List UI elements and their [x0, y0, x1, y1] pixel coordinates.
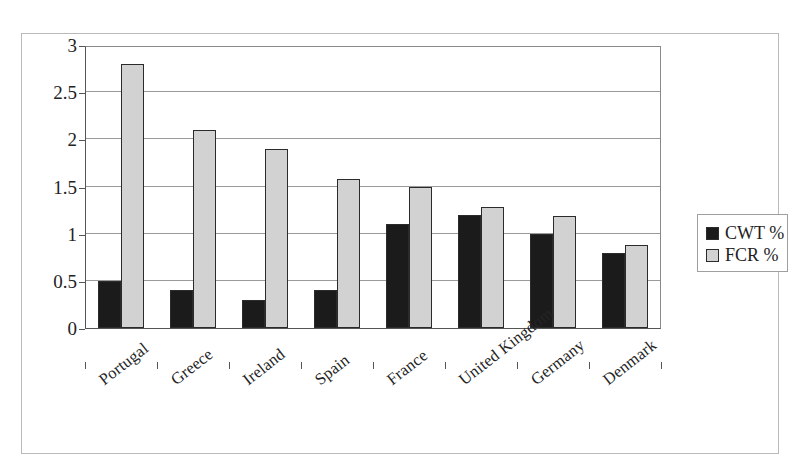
bar-group — [158, 47, 230, 328]
y-axis-tick-label: 2 — [68, 129, 78, 151]
plot-area — [85, 46, 661, 329]
x-axis-tick-mark — [517, 362, 518, 369]
x-axis-label: Ireland — [239, 344, 289, 389]
bar-fcr[interactable] — [265, 149, 288, 328]
x-axis-label: Germany — [527, 335, 589, 389]
bar-group — [302, 47, 374, 328]
x-axis-tick-mark — [229, 362, 230, 369]
bar-group — [374, 47, 446, 328]
y-axis-tick-label: 0.5 — [53, 271, 77, 293]
bar-fcr[interactable] — [553, 216, 576, 328]
bar-group — [590, 47, 662, 328]
legend-label: CWT % — [725, 223, 784, 244]
bar-fcr[interactable] — [625, 245, 648, 328]
bar-group — [518, 47, 590, 328]
y-axis-tick-mark — [79, 140, 85, 141]
y-axis: 00.511.522.53 — [22, 46, 77, 329]
y-axis-tick-mark — [79, 188, 85, 189]
bar-group — [446, 47, 518, 328]
x-axis-tick-mark — [301, 362, 302, 369]
y-axis-tick-label: 1.5 — [53, 177, 77, 199]
y-axis-tick-label: 1 — [68, 224, 78, 246]
y-axis-tick-mark — [79, 329, 85, 330]
bar-fcr[interactable] — [193, 130, 216, 328]
y-axis-tick-label: 2.5 — [53, 82, 77, 104]
bar-fcr[interactable] — [481, 207, 504, 328]
bar-group — [230, 47, 302, 328]
legend-item[interactable]: FCR % — [706, 244, 787, 266]
x-axis-label: Spain — [311, 350, 354, 390]
bar-cwt[interactable] — [386, 224, 409, 328]
chart-frame: 00.511.522.53 PortugalGreeceIrelandSpain… — [21, 33, 779, 454]
bar-cwt[interactable] — [602, 253, 625, 328]
bar-fcr[interactable] — [337, 179, 360, 328]
x-axis-tick-mark — [85, 362, 86, 369]
legend-swatch-icon — [706, 249, 719, 262]
bar-group — [86, 47, 158, 328]
bar-cwt[interactable] — [170, 290, 193, 328]
y-axis-tick-mark — [79, 282, 85, 283]
x-axis-label: Portugal — [95, 339, 153, 390]
bar-cwt[interactable] — [458, 215, 481, 328]
bar-cwt[interactable] — [314, 290, 337, 328]
y-axis-tick-mark — [79, 93, 85, 94]
x-axis-tick-mark — [157, 362, 158, 369]
legend-label: FCR % — [725, 245, 779, 266]
bar-cwt[interactable] — [242, 300, 265, 328]
y-axis-tick-mark — [79, 46, 85, 47]
y-axis-tick-label: 0 — [68, 318, 78, 340]
bar-fcr[interactable] — [121, 64, 144, 328]
x-axis-tick-mark — [589, 362, 590, 369]
bar-fcr[interactable] — [409, 187, 432, 329]
y-axis-tick-mark — [79, 235, 85, 236]
x-axis-label: Greece — [167, 345, 217, 390]
y-axis-tick-label: 3 — [68, 35, 78, 57]
x-axis-tick-mark — [445, 362, 446, 369]
bar-cwt[interactable] — [98, 281, 121, 328]
x-axis-tick-mark — [373, 362, 374, 369]
x-axis-label: France — [383, 346, 432, 390]
legend-swatch-icon — [706, 227, 719, 240]
x-axis-label: Denmark — [599, 335, 661, 389]
legend-item[interactable]: CWT % — [706, 222, 787, 244]
chart-legend: CWT %FCR % — [697, 214, 788, 272]
x-axis-tick-mark — [661, 362, 662, 369]
